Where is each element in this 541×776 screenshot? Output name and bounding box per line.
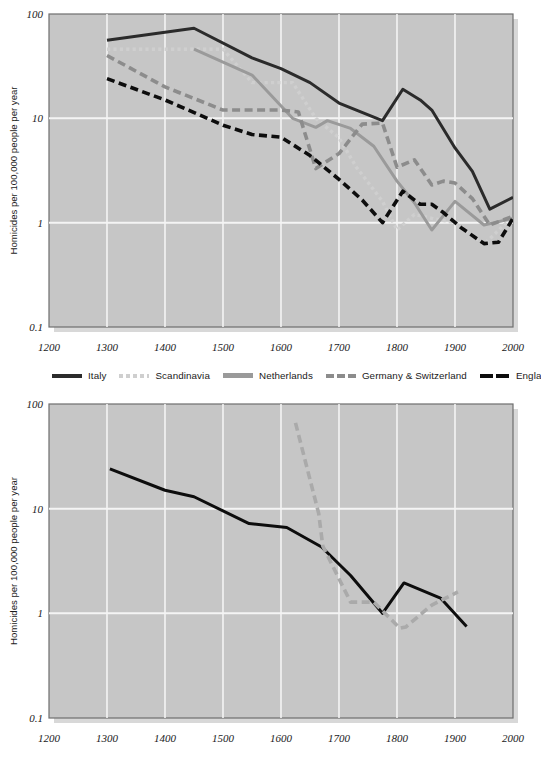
legend-swatch-icon xyxy=(326,374,356,378)
legend-swatch-icon xyxy=(480,374,510,378)
legend-label: Netherlands xyxy=(259,371,313,381)
x-tick-label: 1800 xyxy=(386,341,409,353)
legend-item-netherlands: Netherlands xyxy=(223,371,313,381)
x-tick-label: 1800 xyxy=(386,732,409,744)
legend-label: Scandinavia xyxy=(155,371,209,381)
y-tick-label: 1 xyxy=(38,217,44,229)
x-tick-label: 1300 xyxy=(96,732,119,744)
y-tick-label: 0.1 xyxy=(29,712,43,724)
y-tick-label: 0.1 xyxy=(29,321,43,333)
legend-item-germany-switzerland: Germany & Switzerland xyxy=(326,371,467,381)
y-axis-title: Homicides per 100,000 people per year xyxy=(8,476,19,645)
y-tick-label: 10 xyxy=(32,112,44,124)
legend-label: Italy xyxy=(88,371,106,381)
chart-panel-england: 1001010.11200130014001500160017001800190… xyxy=(0,392,541,776)
y-tick-label: 100 xyxy=(27,398,44,410)
england-new-england-line-chart: 1001010.11200130014001500160017001800190… xyxy=(0,392,541,776)
x-tick-label: 1400 xyxy=(154,341,177,353)
x-tick-label: 2000 xyxy=(502,732,525,744)
x-tick-label: 1900 xyxy=(444,732,467,744)
legend-swatch-icon xyxy=(52,374,82,378)
x-tick-label: 1600 xyxy=(270,732,293,744)
legend-label: Germany & Switzerland xyxy=(362,371,467,381)
x-tick-label: 1200 xyxy=(38,341,61,353)
x-tick-label: 1900 xyxy=(444,341,467,353)
x-tick-label: 1500 xyxy=(212,341,235,353)
y-axis-title: Homicides per 100,000 people per year xyxy=(8,86,19,255)
x-tick-label: 1500 xyxy=(212,732,235,744)
x-tick-label: 1700 xyxy=(328,341,351,353)
legend-item-scandinavia: Scandinavia xyxy=(119,371,209,381)
y-tick-label: 100 xyxy=(27,8,44,20)
x-tick-label: 1600 xyxy=(270,341,293,353)
legend-item-italy: Italy xyxy=(52,371,106,381)
x-tick-label: 1400 xyxy=(154,732,177,744)
x-tick-label: 2000 xyxy=(502,341,525,353)
legend-swatch-icon xyxy=(119,374,149,378)
europe-homicide-line-chart: 1001010.11200130014001500160017001800190… xyxy=(0,0,541,392)
chart-panel-europe: 1001010.11200130014001500160017001800190… xyxy=(0,0,541,392)
legend-swatch-icon xyxy=(223,373,253,378)
x-tick-label: 1700 xyxy=(328,732,351,744)
legend-item-england: England xyxy=(480,371,541,381)
y-tick-label: 1 xyxy=(38,607,44,619)
x-tick-label: 1200 xyxy=(38,732,61,744)
x-tick-label: 1300 xyxy=(96,341,119,353)
y-tick-label: 10 xyxy=(32,503,44,515)
legend-label: England xyxy=(516,371,541,381)
legend-europe: ItalyScandinaviaNetherlandsGermany & Swi… xyxy=(52,371,541,381)
